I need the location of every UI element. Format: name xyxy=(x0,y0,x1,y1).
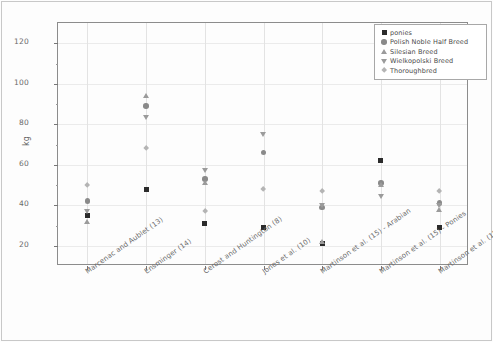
data-point xyxy=(143,93,149,98)
data-point xyxy=(378,182,384,187)
data-point xyxy=(378,194,384,199)
y-gridline xyxy=(58,165,467,166)
y-tick-minor xyxy=(56,104,58,105)
legend-label: Thoroughbred xyxy=(390,67,437,75)
x-tick-label: Martinson et al. (15) - Arabian xyxy=(319,269,324,276)
y-gridline xyxy=(58,124,467,125)
data-point xyxy=(143,145,149,151)
y-tick-minor xyxy=(56,185,58,186)
y-tick-mark xyxy=(54,43,58,44)
y-tick-mark xyxy=(54,84,58,85)
data-point xyxy=(144,187,149,192)
legend-label: Wielkopolski Breed xyxy=(390,57,453,65)
data-point xyxy=(319,188,325,194)
y-tick-mark xyxy=(54,165,58,166)
x-tick-label: Jones et al. (10) xyxy=(261,269,266,276)
x-tick-label: Ensminger (14) xyxy=(143,269,148,276)
y-tick-minor xyxy=(56,226,58,227)
legend-item[interactable]: Silesian Breed xyxy=(378,47,482,56)
legend-marker-icon xyxy=(378,57,390,66)
legend-marker-icon xyxy=(378,28,390,37)
y-tick-label: 120 xyxy=(14,37,29,46)
legend-marker-icon xyxy=(378,47,390,56)
data-point xyxy=(260,186,266,192)
data-point xyxy=(261,150,267,156)
legend-label: Polish Noble Half Breed xyxy=(390,38,468,46)
y-tick-label: 40 xyxy=(19,199,29,208)
y-tick-minor xyxy=(56,145,58,146)
x-tick-label: Cerost and Huntington (8) xyxy=(202,269,207,276)
data-point xyxy=(202,221,207,226)
y-gridline xyxy=(58,84,467,85)
y-tick-label: 80 xyxy=(19,118,29,127)
data-point xyxy=(319,239,325,244)
legend-marker-icon xyxy=(378,66,390,75)
x-tick-label: Martinson et al. (15) - Stock horses xyxy=(437,269,442,276)
y-tick-minor xyxy=(56,64,58,65)
data-point xyxy=(260,132,266,137)
data-point xyxy=(84,182,90,188)
data-point xyxy=(143,103,149,109)
chart-legend: poniesPolish Noble Half BreedSilesian Br… xyxy=(374,24,487,80)
x-tick-label: Martinson et al. (15) - Ponies xyxy=(378,269,383,276)
legend-item[interactable]: ponies xyxy=(378,28,482,37)
data-point xyxy=(437,188,443,194)
data-point xyxy=(84,219,90,224)
data-point xyxy=(378,158,383,163)
legend-label: Silesian Breed xyxy=(390,48,438,56)
y-tick-mark xyxy=(54,246,58,247)
legend-item[interactable]: Polish Noble Half Breed xyxy=(378,38,482,47)
y-tick-label: 20 xyxy=(19,240,29,249)
data-point xyxy=(202,208,208,214)
y-tick-label: 60 xyxy=(19,159,29,168)
x-gridline xyxy=(322,23,323,264)
legend-marker-icon xyxy=(378,38,390,47)
chart-figure: kg poniesPolish Noble Half BreedSilesian… xyxy=(0,0,493,342)
y-tick-label: 100 xyxy=(14,78,29,87)
x-gridline xyxy=(87,23,88,264)
y-axis-label: kg xyxy=(22,136,31,146)
data-point xyxy=(85,198,91,204)
data-point xyxy=(436,203,442,208)
data-point xyxy=(85,213,90,218)
legend-item[interactable]: Wielkopolski Breed xyxy=(378,57,482,66)
data-point xyxy=(202,180,208,185)
legend-item[interactable]: Thoroughbred xyxy=(378,66,482,75)
data-point xyxy=(143,115,149,120)
legend-label: ponies xyxy=(390,29,412,37)
x-gridline xyxy=(205,23,206,264)
x-tick-label: Marcenac and Aublet (13) xyxy=(84,269,89,276)
data-point xyxy=(202,168,208,173)
data-point xyxy=(319,203,325,208)
data-point xyxy=(84,209,90,214)
y-tick-mark xyxy=(54,124,58,125)
y-tick-mark xyxy=(54,205,58,206)
y-gridline xyxy=(58,205,467,206)
